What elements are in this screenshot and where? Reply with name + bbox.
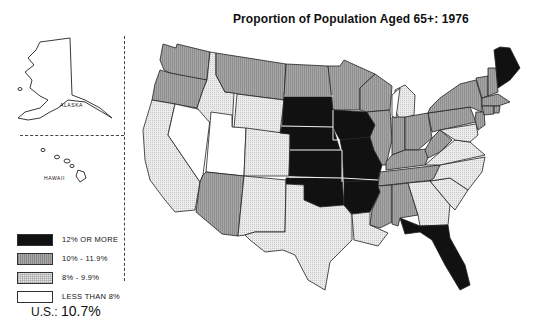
state-fl	[400, 218, 470, 290]
state-me	[494, 47, 520, 88]
legend-item-8-to-9-9: 8% - 9.9%	[17, 268, 120, 287]
state-nd	[284, 64, 333, 96]
us-total-value: 10.7%	[61, 303, 101, 319]
legend-swatch-dark-hatch	[17, 253, 53, 265]
state-ri	[494, 106, 500, 113]
state-ks	[289, 150, 342, 178]
state-nm	[238, 176, 286, 236]
state-sd	[282, 96, 333, 127]
state-wy	[234, 94, 284, 133]
us-total-prefix: U.S.:	[31, 305, 61, 319]
legend-label: LESS THAN 8%	[62, 292, 120, 301]
legend-label: 12% OR MORE	[62, 235, 118, 244]
legend-item-10-to-11-9: 10% - 11.9%	[17, 249, 120, 268]
legend-swatch-black	[17, 234, 53, 246]
state-ny	[428, 80, 482, 113]
inset-divider-vertical	[124, 36, 125, 281]
legend-swatch-light-grid	[17, 272, 53, 284]
legend: 12% OR MORE 10% - 11.9% 8% - 9.9% LESS T…	[17, 230, 120, 306]
hawaii-label: HAWAII	[44, 175, 65, 181]
state-az	[196, 172, 244, 236]
state-co	[244, 128, 290, 176]
state-in	[392, 117, 405, 155]
inset-divider-horizontal	[20, 135, 124, 136]
state-ct	[482, 106, 494, 115]
alaska-label: ALASKA	[60, 102, 83, 108]
legend-swatch-white	[17, 291, 53, 303]
legend-item-12-or-more: 12% OR MORE	[17, 230, 120, 249]
legend-label: 10% - 11.9%	[62, 254, 108, 263]
us-total: U.S.: 10.7%	[31, 303, 101, 319]
legend-label: 8% - 9.9%	[62, 273, 99, 282]
